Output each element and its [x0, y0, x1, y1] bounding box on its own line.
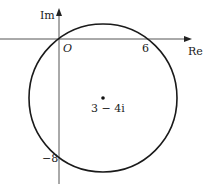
imaginary-axis-label: Im — [40, 10, 55, 21]
x-intercept-label: 6 — [142, 43, 149, 54]
center-label: 3 − 4i — [91, 103, 125, 114]
real-axis-label: Re — [188, 46, 203, 57]
real-axis-arrow-icon — [184, 36, 192, 42]
origin-label: O — [63, 43, 72, 54]
complex-plane-diagram — [0, 0, 206, 184]
imaginary-axis-arrow-icon — [56, 8, 62, 16]
y-intercept-label: −8 — [42, 153, 58, 164]
center-point — [101, 96, 105, 100]
